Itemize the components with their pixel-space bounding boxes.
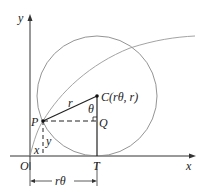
point-q-label: Q [99, 116, 108, 130]
x-axis-label: x [185, 159, 192, 173]
center-point [95, 94, 99, 98]
point-c-label: C(rθ, r) [101, 90, 138, 104]
dim-arrow-right-icon [92, 179, 97, 183]
dim-arrow-left-icon [30, 179, 35, 183]
origin-label: O [20, 159, 29, 173]
y-axis-label: y [17, 11, 24, 25]
point-p [41, 119, 45, 123]
y-axis-arrow-icon [28, 14, 33, 21]
x-segment-label: x [33, 143, 40, 157]
arc-length-label: rθ [55, 174, 66, 188]
angle-label: θ [88, 102, 94, 116]
cycloid-diagram: y x O C(rθ, r) P Q T r θ y x rθ [0, 0, 204, 192]
point-t-label: T [93, 159, 101, 173]
point-p-label: P [30, 115, 39, 129]
radius-label: r [68, 96, 73, 110]
x-axis-arrow-icon [189, 154, 196, 159]
y-segment-label: y [45, 134, 52, 148]
